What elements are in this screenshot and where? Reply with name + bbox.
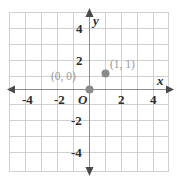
x-axis-arrow-left bbox=[7, 86, 15, 94]
origin-point-label: (0, 0) bbox=[51, 71, 76, 83]
coordinate-plane-graph: -4 -2 2 4 4 2 -2 -4 O x y (0, 0) (1, 1) bbox=[0, 0, 177, 179]
graph-canvas bbox=[0, 0, 177, 179]
y-tick-label-neg2: -2 bbox=[71, 114, 82, 127]
point-one-one bbox=[102, 70, 110, 78]
y-tick-label-pos2: 2 bbox=[76, 54, 83, 67]
x-axis-name: x bbox=[157, 74, 164, 87]
x-tick-label-neg2: -2 bbox=[54, 93, 65, 106]
y-axis-name: y bbox=[93, 14, 99, 27]
x-tick-label-pos4: 4 bbox=[150, 93, 157, 106]
origin-letter: O bbox=[78, 93, 87, 106]
point-one-one-label: (1, 1) bbox=[110, 59, 135, 71]
y-tick-label-neg4: -4 bbox=[71, 146, 82, 159]
x-axis-arrow-right bbox=[166, 86, 174, 94]
y-tick-label-pos4: 4 bbox=[76, 22, 83, 35]
x-tick-label-pos2: 2 bbox=[118, 93, 125, 106]
x-tick-label-neg4: -4 bbox=[22, 93, 33, 106]
